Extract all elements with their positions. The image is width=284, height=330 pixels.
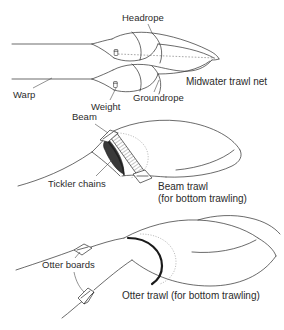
headrope-rib-inner: [132, 32, 141, 60]
caption-otter-trawl: Otter trawl (for bottom trawling): [122, 290, 260, 301]
groundrope-rib-outer: [152, 66, 161, 94]
panel-beam-trawl: Beam Tickler chains Beam trawl (for bott…: [18, 111, 247, 204]
panel-midwater-trawl: Headrope Warp Weight Groundrope Midwater…: [12, 12, 267, 112]
headrope-leader: [148, 24, 152, 33]
beam-net-right-edge: [166, 150, 241, 177]
net-centre-axis: [118, 54, 215, 58]
weight-lower: [114, 82, 118, 88]
label-beam: Beam: [72, 111, 97, 122]
bridle-upper-top: [92, 39, 112, 44]
net-mouth-lower-outline: [113, 60, 212, 71]
bridle-upper-bottom: [92, 44, 114, 58]
groundrope-leader: [154, 80, 159, 92]
caption-beam-trawl-line1: Beam trawl: [158, 181, 208, 192]
otter-bridle-upper: [88, 238, 124, 248]
otter-net-right-edge: [258, 238, 276, 256]
bridle-lower-top: [92, 70, 113, 79]
trawl-gear-diagram: Headrope Warp Weight Groundrope Midwater…: [0, 0, 284, 330]
diagram-canvas: Headrope Warp Weight Groundrope Midwater…: [0, 0, 284, 330]
otter-bridle-lower: [94, 260, 132, 290]
otter-net-top-edge: [124, 220, 258, 238]
label-warp: Warp: [13, 89, 35, 100]
panel-otter-trawl: Otter boards Otter trawl (for bottom tra…: [16, 216, 280, 318]
label-tickler-chains: Tickler chains: [48, 178, 106, 189]
groundrope-rib-inner: [132, 64, 141, 91]
otter-net-inner-fold: [192, 240, 256, 253]
weight-upper: [114, 50, 118, 56]
label-headrope: Headrope: [122, 12, 164, 23]
bridle-lower-bottom: [92, 79, 114, 90]
net-mouth-lower-bottom-edge: [114, 74, 158, 92]
beam-leader: [95, 124, 108, 133]
net-mouth-upper-outline: [112, 32, 219, 59]
warp-leader: [33, 78, 52, 88]
caption-midwater-trawl: Midwater trawl net: [186, 76, 267, 87]
otter-board-upper: [74, 244, 92, 255]
otter-net-top-wing: [198, 216, 280, 234]
label-groundrope: Groundrope: [133, 92, 184, 103]
otter-boards-leader-upper: [75, 252, 80, 258]
otter-warp-lower: [62, 300, 84, 318]
beam-net-inner-fold: [176, 150, 234, 170]
weight-leader: [110, 88, 116, 100]
headrope-rib-outer: [152, 33, 162, 63]
net-mouth-upper-lower-edge: [114, 44, 158, 61]
caption-beam-trawl-line2: (for bottom trawling): [158, 193, 247, 204]
tickler-chains-leader: [96, 160, 112, 176]
label-otter-boards: Otter boards: [42, 259, 95, 270]
net-codend-tip: [212, 59, 219, 60]
otter-boards-leader-lower: [74, 272, 84, 292]
